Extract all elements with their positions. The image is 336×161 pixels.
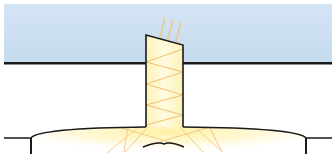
diagram: Tubular skylight light path (0, 0, 336, 161)
light-tube (146, 35, 183, 127)
roof-right (183, 62, 332, 65)
roof-left (4, 62, 146, 65)
